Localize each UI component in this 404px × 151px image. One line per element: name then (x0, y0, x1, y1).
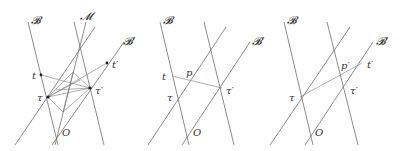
label-t-prime: t′ (112, 59, 119, 70)
label-B-prime: 𝓑′ (123, 35, 136, 48)
label-tau-prime: τ′ (226, 85, 235, 96)
label-tau: τ (37, 92, 43, 103)
light-diamond (48, 72, 90, 112)
label-t: t (162, 71, 167, 82)
label-tau: τ (289, 92, 295, 103)
panel-1: 𝓑 𝓜 𝓑′ t t′ τ τ′ O (15, 10, 136, 145)
label-p: p (186, 67, 193, 78)
label-B-prime: 𝓑′ (376, 35, 389, 48)
point-t (40, 74, 43, 77)
label-B: 𝓑 (163, 14, 175, 27)
label-O: O (315, 127, 323, 138)
line-m-diag (55, 22, 86, 145)
worldline-M (74, 22, 104, 145)
label-tau-prime: τ′ (350, 85, 359, 96)
label-B: 𝓑 (31, 14, 43, 27)
worldline-B (160, 22, 189, 145)
label-tau-prime: τ′ (95, 85, 104, 96)
label-B: 𝓑 (287, 14, 299, 27)
point-tau (46, 95, 49, 98)
label-O: O (62, 127, 70, 138)
label-t-prime: t′ (367, 59, 374, 70)
signal-t-tauprime (172, 76, 222, 88)
label-t: t (32, 70, 37, 81)
spacetime-diagram-figure: 𝓑 𝓜 𝓑′ t t′ τ τ′ O 𝓑 𝓑′ t p τ τ′ O 𝓑 𝓑′ … (0, 0, 404, 151)
panel-3: 𝓑 𝓑′ p′ t′ τ τ′ O (270, 14, 389, 145)
line-through-tau (270, 27, 350, 145)
label-O: O (193, 127, 201, 138)
worldline-parallel (204, 22, 234, 145)
worldline-parallel (327, 22, 358, 145)
worldline-B (28, 22, 58, 145)
panel-2: 𝓑 𝓑′ t p τ τ′ O (148, 14, 265, 145)
label-p-prime: p′ (341, 60, 350, 71)
point-tau-prime (88, 86, 91, 89)
label-tau: τ (167, 92, 173, 103)
worldline-B (284, 22, 313, 145)
diamond-inner-1 (48, 80, 80, 97)
label-B-prime: 𝓑′ (252, 35, 265, 48)
label-M: 𝓜 (80, 10, 96, 23)
point-t-prime (106, 62, 109, 65)
